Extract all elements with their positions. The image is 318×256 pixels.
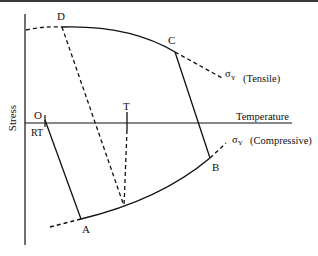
compressive-yield-curve xyxy=(81,158,210,219)
compressive-curve-dashed-left xyxy=(50,219,81,227)
point-t-label: T xyxy=(123,100,130,112)
point-b-label: B xyxy=(212,161,219,173)
line-d-dashed xyxy=(62,27,124,206)
tensile-sigma: σY xyxy=(225,68,236,82)
stress-temperature-diagram: Stress O RT Temperature D C T A B σY (Te… xyxy=(0,0,318,256)
tensile-curve-dashed-left xyxy=(26,27,62,30)
compressive-sigma: σY xyxy=(232,134,243,147)
line-c-to-b xyxy=(175,52,210,158)
tensile-yield-curve xyxy=(62,27,175,52)
tensile-label: (Tensile) xyxy=(243,73,281,85)
point-c-label: C xyxy=(168,34,175,46)
point-a-label: A xyxy=(82,223,90,235)
line-t-dashed xyxy=(124,130,127,206)
rt-label: RT xyxy=(31,127,43,138)
y-axis-label: Stress xyxy=(6,105,18,131)
tensile-sigma-subscript: Y xyxy=(231,74,236,82)
line-o-to-a xyxy=(45,120,81,219)
diagram-frame: Stress O RT Temperature D C T A B σY (Te… xyxy=(0,0,318,256)
compressive-label: (Compressive) xyxy=(250,135,312,147)
point-d-label: D xyxy=(57,10,65,22)
compressive-sigma-subscript: Y xyxy=(238,139,243,147)
x-axis-label: Temperature xyxy=(236,111,289,122)
origin-label: O xyxy=(34,109,42,121)
compressive-curve-dashed-right xyxy=(210,143,226,158)
